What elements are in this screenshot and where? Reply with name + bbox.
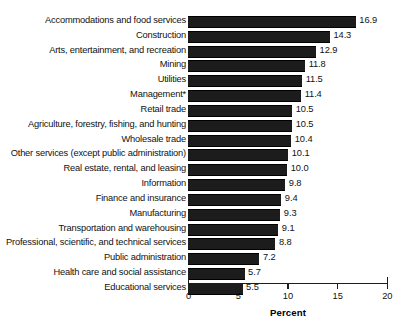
bar-row: Agriculture, forestry, fishing, and hunt…	[0, 120, 407, 135]
bar-value-label: 16.9	[359, 15, 377, 26]
bar-container	[188, 209, 280, 219]
bar-value-label: 10.5	[296, 119, 314, 130]
bar	[188, 16, 356, 28]
category-label: Real estate, rental, and leasing	[6, 163, 186, 174]
bar-rows: Accommodations and food services16.9Cons…	[0, 16, 407, 298]
bar-row: Arts, entertainment, and recreation12.9	[0, 46, 407, 61]
bar-row: Utilities11.5	[0, 75, 407, 90]
bar-container	[188, 46, 316, 56]
bar-row: Public administration7.2	[0, 253, 407, 268]
bar	[188, 179, 285, 191]
bar	[188, 238, 275, 250]
bar	[188, 253, 259, 265]
bar-row: Accommodations and food services16.9	[0, 16, 407, 31]
bar-row: Other services (except public administra…	[0, 149, 407, 164]
bar-value-label: 9.3	[284, 208, 297, 219]
bar-container	[188, 179, 285, 189]
x-axis-tick	[287, 284, 288, 289]
bar-value-label: 9.4	[285, 193, 298, 204]
category-label: Educational services	[6, 282, 186, 293]
bar-value-label: 11.5	[306, 74, 323, 85]
bar	[188, 120, 292, 132]
bar-container	[188, 31, 330, 41]
bar	[188, 31, 330, 43]
x-axis-title: Percent	[188, 307, 388, 318]
bar	[188, 209, 280, 221]
bar-row: Finance and insurance9.4	[0, 194, 407, 209]
bar-value-label: 7.2	[263, 252, 276, 263]
category-label: Manufacturing	[6, 208, 186, 219]
bar-container	[188, 16, 356, 26]
bar-value-label: 10.5	[296, 104, 314, 115]
x-axis-tick	[238, 284, 239, 289]
bar	[188, 75, 302, 87]
bar-container	[188, 60, 305, 70]
category-label: Accommodations and food services	[6, 15, 186, 26]
category-label: Health care and social assistance	[6, 267, 186, 278]
bar-row: Health care and social assistance5.7	[0, 268, 407, 283]
category-label: Transportation and warehousing	[6, 223, 186, 234]
bar	[188, 149, 288, 161]
bar	[188, 164, 287, 176]
category-label: Management*	[6, 89, 186, 100]
bar-value-label: 5.7	[248, 267, 261, 278]
category-label: Other services (except public administra…	[6, 148, 186, 159]
bar-row: Real estate, rental, and leasing10.0	[0, 164, 407, 179]
bar-container	[188, 90, 301, 100]
bar	[188, 46, 316, 58]
x-axis-tick	[387, 284, 388, 289]
bar-container	[188, 238, 275, 248]
bar-value-label: 8.8	[279, 237, 292, 248]
category-label: Agriculture, forestry, fishing, and hunt…	[6, 119, 186, 130]
bar-value-label: 9.8	[289, 178, 302, 189]
bar-row: Educational services5.5	[0, 283, 407, 298]
bar-row: Wholesale trade10.4	[0, 135, 407, 150]
bar-container	[188, 283, 243, 293]
bar-row: Professional, scientific, and technical …	[0, 238, 407, 253]
category-label: Retail trade	[6, 104, 186, 115]
bar-container	[188, 194, 281, 204]
category-label: Public administration	[6, 252, 186, 263]
bar-row: Mining11.8	[0, 60, 407, 75]
bar-container	[188, 224, 278, 234]
category-label: Mining	[6, 59, 186, 70]
x-axis-tick-label: 5	[236, 291, 241, 302]
bar	[188, 194, 281, 206]
x-axis-tick-label: 0	[186, 291, 191, 302]
category-label: Professional, scientific, and technical …	[6, 237, 186, 248]
bar-value-label: 9.1	[282, 223, 295, 234]
x-axis-tick-label: 10	[283, 291, 293, 302]
bar-value-label: 11.4	[305, 89, 322, 100]
bar-row: Management*11.4	[0, 90, 407, 105]
horizontal-bar-chart: Accommodations and food services16.9Cons…	[0, 0, 407, 330]
x-axis-tick	[188, 284, 189, 289]
bar-container	[188, 120, 292, 130]
bar	[188, 283, 243, 295]
bar-row: Manufacturing9.3	[0, 209, 407, 224]
x-axis-tick-label: 15	[332, 291, 342, 302]
category-label: Utilities	[6, 74, 186, 85]
bar-row: Information9.8	[0, 179, 407, 194]
bar-row: Transportation and warehousing9.1	[0, 224, 407, 239]
bar-row: Retail trade10.5	[0, 105, 407, 120]
bar-value-label: 14.3	[333, 30, 351, 41]
bar-container	[188, 75, 302, 85]
bar-value-label: 10.1	[292, 148, 310, 159]
bar	[188, 60, 305, 72]
bar-row: Construction14.3	[0, 31, 407, 46]
bar-value-label: 10.0	[291, 163, 309, 174]
bar	[188, 105, 292, 117]
bar-container	[188, 105, 292, 115]
x-axis-right-cap	[387, 277, 388, 284]
bar-value-label: 11.8	[309, 59, 326, 70]
bar-container	[188, 135, 291, 145]
bar	[188, 224, 278, 236]
category-label: Arts, entertainment, and recreation	[6, 45, 186, 56]
bar-container	[188, 164, 287, 174]
category-label: Finance and insurance	[6, 193, 186, 204]
bar-value-label: 10.4	[295, 134, 313, 145]
category-label: Information	[6, 178, 186, 189]
category-label: Construction	[6, 30, 186, 41]
bar	[188, 268, 245, 280]
bar	[188, 90, 301, 102]
